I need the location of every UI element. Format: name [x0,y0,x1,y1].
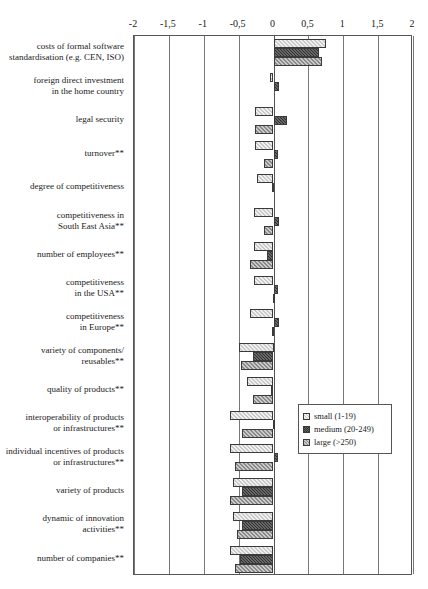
bar-small [274,39,326,48]
category-label-line: competitiveness [0,311,124,322]
legend-item-large: large (>250) [303,436,387,448]
category-label: dynamic of innovationactivities** [0,513,124,535]
category-label: competitivenessin Europe** [0,311,124,333]
bar-medium [274,217,280,226]
legend-label: large (>250) [314,436,356,448]
bar-large [255,125,274,134]
category-label: competitivenessin the USA** [0,277,124,299]
bar-small [254,242,274,251]
x-axis-tick-labels: -2-1,5-1-0,500,511,52 [0,18,428,34]
category-label: individual incentives of productsor infr… [0,446,124,468]
bar-medium [272,183,274,192]
bar-group [134,70,411,104]
category-label: variety of products [0,485,124,496]
category-label-line: quality of products** [0,384,124,395]
legend-swatch-small-icon [303,413,310,420]
bar-medium [274,82,280,91]
bar-large [242,429,273,438]
bar-group [134,36,411,70]
bar-large [253,395,274,404]
bar-small [247,377,274,386]
category-label-line: or infrastructures** [0,423,124,434]
bar-medium [274,453,279,462]
bar-small [230,411,273,420]
bar-group [134,272,411,306]
bar-medium [273,420,275,429]
category-label-line: interoperability of products [0,412,124,423]
bar-group [134,104,411,138]
x-axis-tick-label: -1 [199,18,207,30]
bar-small [230,546,273,555]
bar-small [257,174,274,183]
category-label-line: degree of competitiveness [0,181,124,192]
bar-group [134,171,411,205]
category-label-line: competitiveness [0,277,124,288]
category-label-line: number of employees** [0,249,124,260]
x-axis-tick-label: 2 [410,18,415,30]
bar-medium [274,150,279,159]
plot-area [133,35,412,575]
bar-small [254,208,274,217]
category-label-line: legal security [0,114,124,125]
bar-large [273,294,275,303]
category-label-line: activities** [0,524,124,535]
legend-item-medium: medium (20-249) [303,423,387,435]
legend-swatch-medium-icon [303,426,310,433]
category-label: turnover** [0,148,124,159]
category-label-line: in the home country [0,86,124,97]
x-axis-tick-label: -1,5 [160,18,176,30]
category-axis-labels: costs of formal softwarestandardisation … [0,35,128,575]
category-label-line: number of companies** [0,553,124,564]
bar-large [241,361,274,370]
bar-medium [242,487,273,496]
category-label-line: turnover** [0,148,124,159]
bar-large [235,462,273,471]
bar-group [134,542,411,576]
survey-bar-chart: -2-1,5-1-0,500,511,52 costs of formal so… [0,0,428,589]
bar-group [134,306,411,340]
category-label-line: competitiveness in [0,210,124,221]
bar-group [134,137,411,171]
legend-label: small (1-19) [314,410,356,422]
category-label-line: reusables** [0,356,124,367]
bar-large [230,496,273,505]
bar-group [134,374,411,408]
x-axis-tick-label: 1,5 [371,18,384,30]
category-label-line: individual incentives of products [0,446,124,457]
gridline [413,36,414,574]
bar-medium [274,318,280,327]
bar-medium [274,116,288,125]
category-label: quality of products** [0,384,124,395]
bar-rows [134,36,411,574]
category-label-line: dynamic of innovation [0,513,124,524]
category-label-line: costs of formal software [0,41,124,52]
bar-large [235,564,273,573]
category-label-line: variety of components/ [0,345,124,356]
bar-small [230,444,273,453]
bar-group [134,205,411,239]
bar-small [239,343,274,352]
bar-small [255,107,274,116]
bar-group [134,475,411,509]
category-label-line: or infrastructures** [0,457,124,468]
bar-medium [271,386,273,395]
category-label: competitiveness inSouth East Asia** [0,210,124,232]
bar-medium [253,352,274,361]
x-axis-tick-label: 0,5 [301,18,314,30]
bar-medium [274,285,279,294]
category-label: costs of formal softwarestandardisation … [0,41,124,63]
category-label-line: in Europe** [0,322,124,333]
x-axis-tick-label: -0,5 [230,18,246,30]
bar-medium [274,48,319,57]
category-label: variety of components/reusables** [0,345,124,367]
bar-medium [267,251,274,260]
legend-item-small: small (1-19) [303,410,387,422]
bar-large [264,226,274,235]
bar-medium [242,521,273,530]
bar-group [134,340,411,374]
category-label: number of employees** [0,249,124,260]
x-axis-tick-label: -2 [129,18,137,30]
category-label: foreign direct investmentin the home cou… [0,75,124,97]
bar-large [237,530,273,539]
bar-large [264,159,273,168]
